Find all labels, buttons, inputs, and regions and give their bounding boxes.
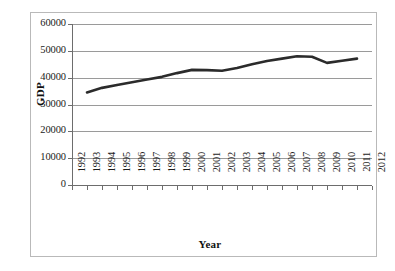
y-axis-title: GDP bbox=[34, 64, 46, 124]
x-axis-tick bbox=[192, 186, 193, 190]
x-axis-tick bbox=[357, 186, 358, 190]
y-axis-tick bbox=[68, 105, 73, 106]
x-axis-tick bbox=[372, 186, 373, 190]
gdp-series-line bbox=[72, 24, 372, 185]
x-axis-tick bbox=[282, 186, 283, 190]
x-axis-tick bbox=[267, 186, 268, 190]
x-axis-tick bbox=[102, 186, 103, 190]
x-axis-tick bbox=[162, 186, 163, 190]
x-axis-tick bbox=[327, 186, 328, 190]
y-axis-tick bbox=[68, 158, 73, 159]
y-axis-tick-labels: 6000050000400003000020000100000 bbox=[0, 0, 66, 271]
y-axis-tick-label: 60000 bbox=[4, 17, 66, 28]
y-axis-tick-label: 20000 bbox=[4, 124, 66, 135]
x-axis-tick bbox=[222, 186, 223, 190]
y-axis-tick-label: 10000 bbox=[4, 151, 66, 162]
x-axis-tick bbox=[72, 186, 73, 190]
y-axis-tick-label: 0 bbox=[4, 178, 66, 189]
x-axis-tick bbox=[342, 186, 343, 190]
y-axis-tick bbox=[68, 78, 73, 79]
x-axis-tick bbox=[132, 186, 133, 190]
gdp-line-chart: 6000050000400003000020000100000 GDP 1992… bbox=[0, 0, 395, 271]
x-axis-tick bbox=[237, 186, 238, 190]
y-axis-tick bbox=[68, 51, 73, 52]
x-axis-tick bbox=[252, 186, 253, 190]
y-axis-tick-label: 50000 bbox=[4, 44, 66, 55]
x-axis-tick-label: 2012 bbox=[376, 152, 387, 192]
y-axis-tick bbox=[68, 131, 73, 132]
x-axis-tick bbox=[117, 186, 118, 190]
x-axis-tick bbox=[207, 186, 208, 190]
x-axis-title: Year bbox=[150, 238, 270, 250]
x-axis-tick bbox=[147, 186, 148, 190]
x-axis-tick bbox=[312, 186, 313, 190]
x-axis-tick bbox=[177, 186, 178, 190]
x-axis-tick bbox=[297, 186, 298, 190]
x-axis-tick bbox=[87, 186, 88, 190]
y-axis-tick bbox=[68, 24, 73, 25]
